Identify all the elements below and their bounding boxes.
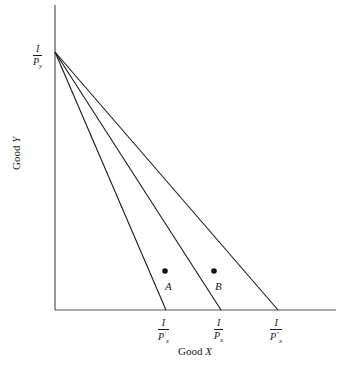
y-intercept-label: I Py [33,44,42,70]
diagram-canvas [0,0,359,372]
x-intercept-label-1: I P′x [158,318,169,345]
budget-line-original [55,52,221,310]
y-axis-label: Good Y [10,137,22,170]
x-intercept-label-3: I P″x [270,318,282,345]
point-b-label: B [215,280,222,292]
x-intercept-label-2: I Px [214,318,223,344]
point-b-dot [211,268,217,274]
budget-line-steep [55,52,166,310]
point-a-label: A [165,280,172,292]
x-axis-label: Good X [178,346,212,357]
point-a-dot [162,268,168,274]
